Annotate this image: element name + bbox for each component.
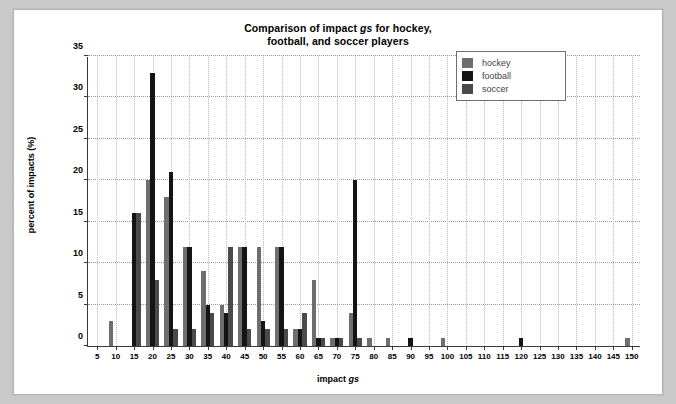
x-tick-mark bbox=[189, 346, 190, 350]
bar-football-25 bbox=[169, 172, 173, 346]
bar-soccer-70 bbox=[339, 338, 343, 346]
gridline-vertical bbox=[116, 57, 117, 346]
x-tick-mark bbox=[540, 346, 541, 350]
x-tick-label: 150 bbox=[625, 352, 638, 361]
y-tick-label: 5 bbox=[78, 290, 83, 300]
gridline-vertical bbox=[208, 57, 209, 346]
x-tick-mark bbox=[263, 346, 264, 350]
x-tick-label: 120 bbox=[514, 352, 527, 361]
y-tick-label: 10 bbox=[73, 248, 83, 258]
x-tick-mark bbox=[300, 346, 301, 350]
x-tick-label: 25 bbox=[166, 352, 175, 361]
x-tick-label: 45 bbox=[240, 352, 249, 361]
gridline-vertical bbox=[97, 57, 98, 346]
x-tick-label: 90 bbox=[406, 352, 415, 361]
x-tick-mark bbox=[97, 346, 98, 350]
bar-hockey-65 bbox=[312, 280, 316, 346]
x-tick-mark bbox=[503, 346, 504, 350]
x-tick-mark bbox=[447, 346, 448, 350]
x-axis-label-italic: gs bbox=[349, 374, 360, 384]
bar-hockey-150 bbox=[625, 338, 629, 346]
x-axis-label-pre: impact bbox=[317, 374, 349, 384]
legend-label-football: football bbox=[482, 71, 511, 81]
x-axis-label: impact gs bbox=[14, 374, 662, 384]
x-tick-label: 30 bbox=[185, 352, 194, 361]
legend-item-football: football bbox=[462, 69, 560, 82]
gridline-vertical bbox=[429, 57, 430, 346]
chart-legend: hockey football soccer bbox=[456, 51, 566, 101]
gridline-vertical bbox=[447, 57, 448, 346]
gridline-vertical bbox=[318, 57, 319, 346]
x-tick-mark bbox=[558, 346, 559, 350]
bar-football-75 bbox=[353, 180, 357, 346]
gridline-vertical bbox=[632, 57, 633, 346]
y-tick-mark bbox=[84, 55, 88, 56]
x-tick-mark bbox=[226, 346, 227, 350]
y-tick-mark bbox=[84, 96, 88, 97]
x-tick-label: 15 bbox=[130, 352, 139, 361]
bar-soccer-50 bbox=[265, 329, 269, 346]
x-tick-mark bbox=[208, 346, 209, 350]
x-tick-mark bbox=[576, 346, 577, 350]
x-tick-mark bbox=[429, 346, 430, 350]
x-tick-mark bbox=[466, 346, 467, 350]
x-tick-label: 95 bbox=[425, 352, 434, 361]
legend-label-soccer: soccer bbox=[482, 84, 509, 94]
bar-football-120 bbox=[519, 338, 523, 346]
x-tick-label: 35 bbox=[203, 352, 212, 361]
bar-soccer-65 bbox=[321, 338, 325, 346]
y-tick-mark bbox=[84, 262, 88, 263]
bar-soccer-75 bbox=[357, 338, 361, 346]
bar-hockey-80 bbox=[367, 338, 371, 346]
legend-swatch-football bbox=[462, 71, 473, 81]
x-tick-mark bbox=[171, 346, 172, 350]
x-tick-label: 65 bbox=[314, 352, 323, 361]
gridline-vertical bbox=[263, 57, 264, 346]
y-tick-mark bbox=[84, 304, 88, 305]
y-tick-mark bbox=[84, 345, 88, 346]
gridline-vertical bbox=[374, 57, 375, 346]
y-tick-mark bbox=[84, 138, 88, 139]
chart-title-line1-italic: gs bbox=[360, 22, 372, 34]
y-tick-mark bbox=[84, 179, 88, 180]
x-tick-label: 145 bbox=[607, 352, 620, 361]
bar-soccer-15 bbox=[136, 213, 140, 346]
bar-soccer-45 bbox=[247, 329, 251, 346]
x-tick-label: 130 bbox=[551, 352, 564, 361]
bar-soccer-60 bbox=[302, 313, 306, 346]
x-tick-mark bbox=[374, 346, 375, 350]
legend-item-soccer: soccer bbox=[462, 82, 560, 95]
bar-hockey-10 bbox=[109, 321, 113, 346]
x-tick-mark bbox=[392, 346, 393, 350]
gridline-vertical bbox=[300, 57, 301, 346]
gridline-vertical bbox=[576, 57, 577, 346]
bar-hockey-85 bbox=[386, 338, 390, 346]
y-tick-label: 15 bbox=[73, 207, 83, 217]
x-tick-mark bbox=[613, 346, 614, 350]
x-tick-mark bbox=[134, 346, 135, 350]
x-tick-mark bbox=[632, 346, 633, 350]
x-tick-label: 110 bbox=[478, 352, 491, 361]
bar-soccer-20 bbox=[155, 280, 159, 346]
x-tick-mark bbox=[282, 346, 283, 350]
chart-title-line1-pre: Comparison of impact bbox=[244, 22, 360, 34]
bar-soccer-55 bbox=[284, 329, 288, 346]
x-tick-label: 105 bbox=[459, 352, 472, 361]
x-tick-label: 50 bbox=[259, 352, 268, 361]
chart-card: Comparison of impact gs for hockey, foot… bbox=[13, 9, 663, 395]
gridline-vertical bbox=[392, 57, 393, 346]
gridline-vertical bbox=[613, 57, 614, 346]
gridline-vertical bbox=[226, 57, 227, 346]
x-tick-mark bbox=[484, 346, 485, 350]
x-tick-label: 70 bbox=[332, 352, 341, 361]
x-tick-label: 10 bbox=[111, 352, 120, 361]
legend-label-hockey: hockey bbox=[482, 58, 511, 68]
gridline-vertical bbox=[595, 57, 596, 346]
gridline-vertical bbox=[411, 57, 412, 346]
x-tick-label: 60 bbox=[296, 352, 305, 361]
chart-title-line1-tail: for hockey, bbox=[372, 22, 431, 34]
x-tick-label: 20 bbox=[148, 352, 157, 361]
x-tick-label: 100 bbox=[441, 352, 454, 361]
y-tick-label: 35 bbox=[73, 41, 83, 51]
y-tick-label: 30 bbox=[73, 82, 83, 92]
